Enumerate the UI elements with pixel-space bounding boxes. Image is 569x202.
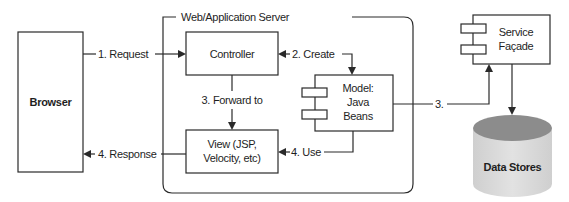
view-node: View (JSP, Velocity, etc) [186,130,278,173]
server-container-title: Web/Application Server [181,11,290,23]
edge-create-label: 2. Create [292,48,335,60]
edge-request: 1. Request [83,48,186,60]
arrowhead-icon [178,50,186,58]
component-tab-icon [302,110,327,119]
view-label-line1: View (JSP, [207,138,256,150]
browser-label: Browser [30,96,73,108]
edge-response-label: 4. Response [98,148,157,160]
browser-node: Browser [18,32,83,172]
edge-service-to-datastores [508,64,516,115]
edge-forward: 3. Forward to [202,75,263,130]
controller-node: Controller [186,32,278,75]
model-label-line2: Java [347,96,370,108]
service-facade-node: Service Façade [461,15,550,64]
component-tab-icon [461,24,486,33]
arrowhead-icon [485,64,493,72]
edge-use-label: 4. Use [291,146,321,158]
component-tab-icon [461,45,486,54]
service-facade-label-line1: Service [499,26,534,38]
edge-to-service-label: 3. [435,98,444,110]
model-label-line1: Model: [342,82,373,94]
arrowhead-icon [348,67,356,75]
model-node: Model: Java Beans [302,75,393,131]
service-facade-label-line2: Façade [499,40,534,52]
controller-label: Controller [210,48,255,60]
edge-response: 4. Response [83,148,186,160]
data-stores-label: Data Stores [484,161,542,173]
component-tab-icon [302,88,327,97]
arrowhead-icon [228,122,236,130]
model-label-line3: Beans [343,110,373,122]
mvc-architecture-diagram: Web/Application Server Browser Controlle… [0,0,569,202]
arrowhead-icon [508,107,516,115]
edge-request-label: 1. Request [98,48,148,60]
edge-use: 4. Use [278,131,353,158]
view-label-line2: Velocity, etc) [203,152,260,164]
edge-forward-label: 3. Forward to [202,94,263,106]
edge-to-service: 3. [393,64,493,110]
data-stores-node: Data Stores [473,115,552,197]
arrowhead-icon [278,148,286,156]
edge-create: 2. Create [278,48,356,75]
